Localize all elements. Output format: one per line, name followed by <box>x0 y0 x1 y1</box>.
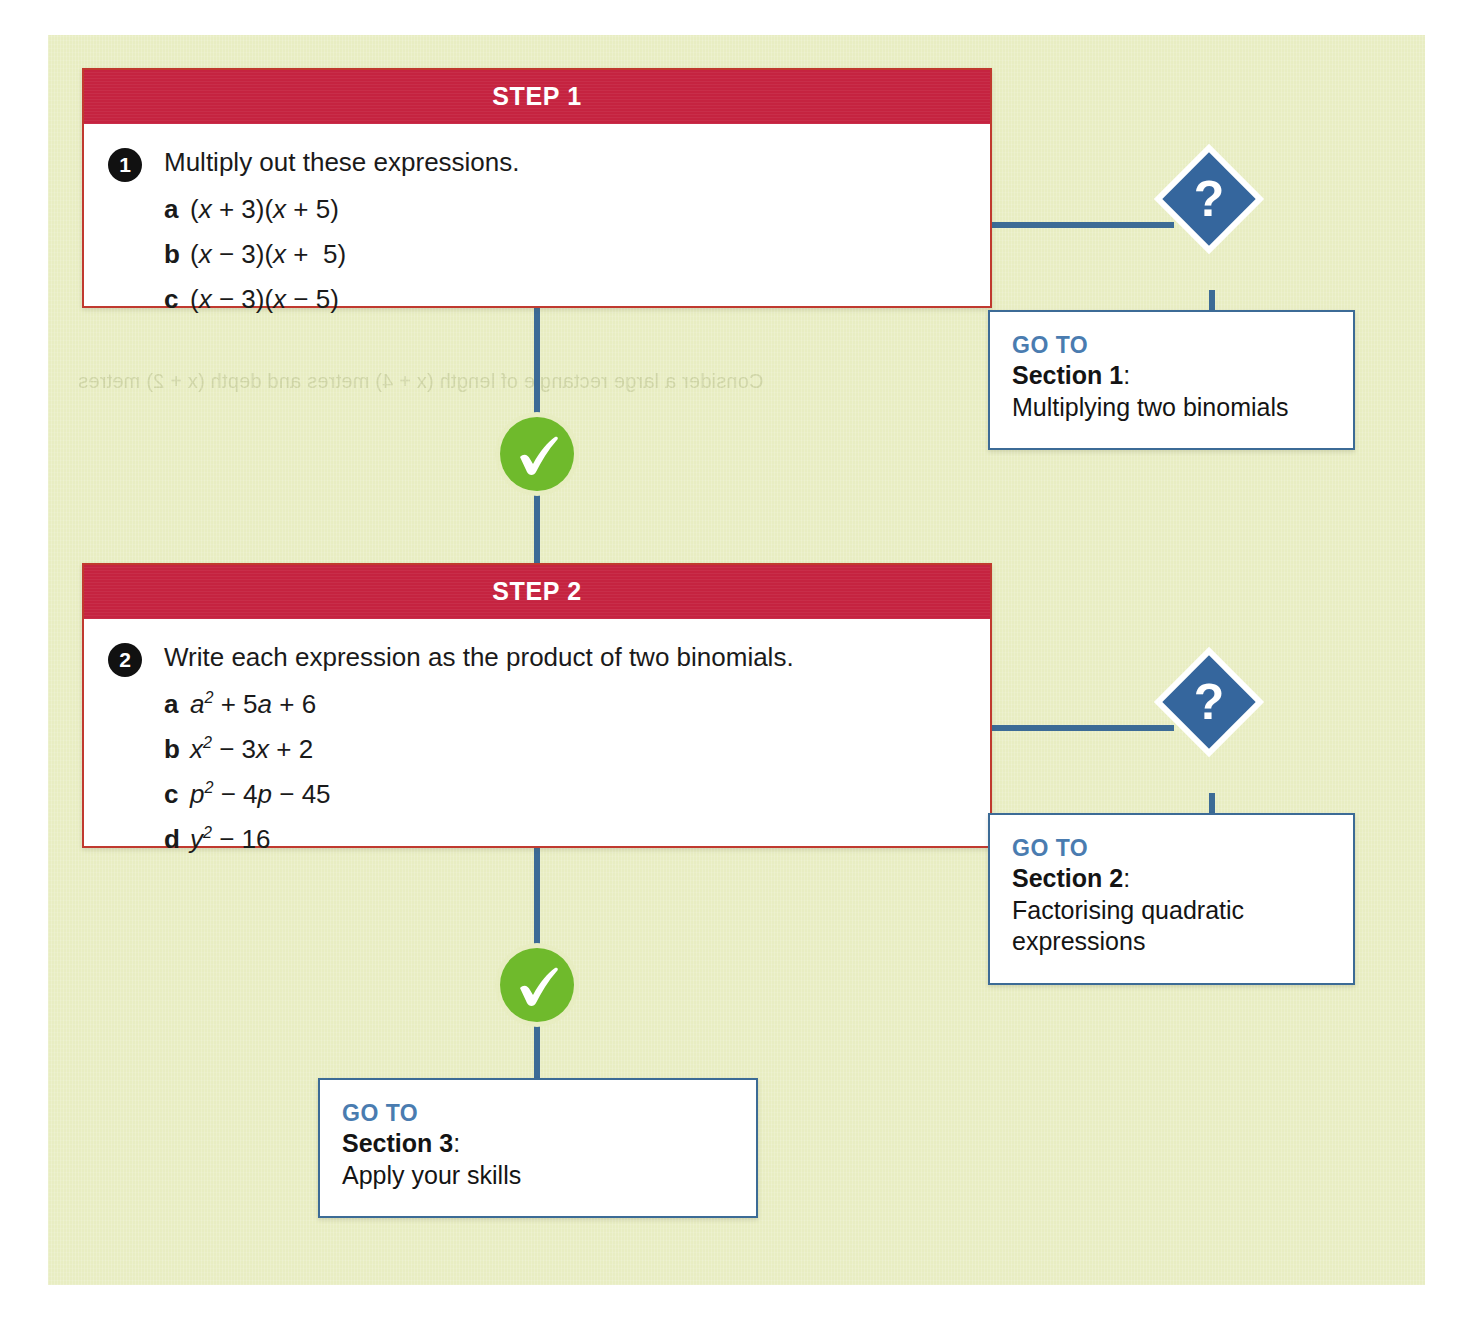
part-expression: x2 − 3x + 2 <box>190 734 313 765</box>
goto-section-colon: : <box>453 1129 460 1157</box>
goto-description: Apply your skills <box>342 1160 734 1191</box>
part-letter: d <box>164 824 190 855</box>
paper-panel: Consider a large rectangle of length (x … <box>48 35 1425 1285</box>
question-2-part-b: b x2 − 3x + 2 <box>164 734 990 765</box>
step-1-box: STEP 1 1 Multiply out these expressions.… <box>82 68 992 308</box>
question-1-number-bullet: 1 <box>108 148 142 182</box>
part-letter: b <box>164 734 190 765</box>
goto-description: Factorising quadratic expressions <box>1012 895 1331 956</box>
question-2-part-a: a a2 + 5a + 6 <box>164 689 990 720</box>
part-letter: a <box>164 194 190 225</box>
question-2-prompt: Write each expression as the product of … <box>164 641 794 674</box>
step-2-box: STEP 2 2 Write each expression as the pr… <box>82 563 992 848</box>
goto-box-section-2[interactable]: GO TO Section 2: Factorising quadratic e… <box>988 813 1355 985</box>
part-expression: (x − 3)(x − 5) <box>190 284 339 315</box>
connector-step1-to-diamond1 <box>992 222 1174 228</box>
question-diamond-icon-2: ? <box>1163 656 1255 748</box>
part-expression: a2 + 5a + 6 <box>190 689 316 720</box>
goto-label: GO TO <box>1012 835 1331 862</box>
goto-section-title: Section 1: <box>1012 361 1331 390</box>
goto-label: GO TO <box>342 1100 734 1127</box>
part-letter: c <box>164 779 190 810</box>
step-1-header: STEP 1 <box>84 70 990 124</box>
question-mark-glyph: ? <box>1163 656 1255 748</box>
goto-section-title: Section 3: <box>342 1129 734 1158</box>
goto-section-name: Section 1 <box>1012 361 1123 389</box>
checkmark-icon-2 <box>500 948 574 1022</box>
question-1-part-c: c (x − 3)(x − 5) <box>164 284 990 315</box>
question-2-row: 2 Write each expression as the product o… <box>84 641 990 677</box>
question-1-parts: a (x + 3)(x + 5) b (x − 3)(x + 5) c (x −… <box>164 194 990 315</box>
goto-section-colon: : <box>1123 864 1130 892</box>
question-1-part-b: b (x − 3)(x + 5) <box>164 239 990 270</box>
page-root: Consider a large rectangle of length (x … <box>0 0 1479 1318</box>
question-2-parts: a a2 + 5a + 6 b x2 − 3x + 2 c p2 − 4p − … <box>164 689 990 855</box>
connector-step2-to-diamond2 <box>992 725 1174 731</box>
goto-description: Multiplying two binomials <box>1012 392 1331 423</box>
step-1-body: 1 Multiply out these expressions. a (x +… <box>84 124 990 341</box>
question-2-part-d: d y2 − 16 <box>164 824 990 855</box>
question-1-row: 1 Multiply out these expressions. <box>84 146 990 182</box>
question-1-part-a: a (x + 3)(x + 5) <box>164 194 990 225</box>
question-mark-glyph: ? <box>1163 153 1255 245</box>
goto-section-title: Section 2: <box>1012 864 1331 893</box>
goto-section-name: Section 2 <box>1012 864 1123 892</box>
part-letter: b <box>164 239 190 270</box>
goto-box-section-1[interactable]: GO TO Section 1: Multiplying two binomia… <box>988 310 1355 450</box>
checkmark-icon-1 <box>500 417 574 491</box>
question-2-number-bullet: 2 <box>108 643 142 677</box>
goto-section-name: Section 3 <box>342 1129 453 1157</box>
goto-box-section-3[interactable]: GO TO Section 3: Apply your skills <box>318 1078 758 1218</box>
goto-label: GO TO <box>1012 332 1331 359</box>
part-letter: a <box>164 689 190 720</box>
part-letter: c <box>164 284 190 315</box>
part-expression: p2 − 4p − 45 <box>190 779 331 810</box>
goto-section-colon: : <box>1123 361 1130 389</box>
step-2-header: STEP 2 <box>84 565 990 619</box>
part-expression: (x + 3)(x + 5) <box>190 194 339 225</box>
step-2-body: 2 Write each expression as the product o… <box>84 619 990 881</box>
question-1-prompt: Multiply out these expressions. <box>164 146 520 179</box>
ghost-bleed-text: Consider a large rectangle of length (x … <box>78 370 764 393</box>
part-expression: (x − 3)(x + 5) <box>190 239 346 270</box>
part-expression: y2 − 16 <box>190 824 271 855</box>
question-2-part-c: c p2 − 4p − 45 <box>164 779 990 810</box>
question-diamond-icon-1: ? <box>1163 153 1255 245</box>
